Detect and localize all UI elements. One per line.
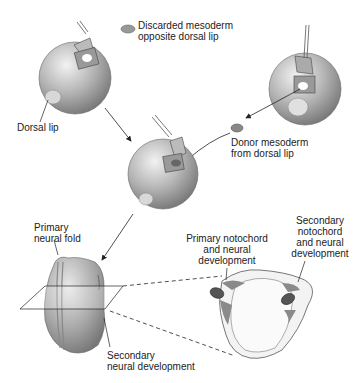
- donor-tissue: [231, 124, 243, 132]
- label-line: Primary notochord: [172, 233, 282, 244]
- label-secondary-notochord: Secondary notochord and neural developme…: [280, 215, 360, 259]
- label-line: development: [280, 248, 360, 259]
- label-line: neural development: [107, 361, 195, 372]
- label-line: development: [172, 255, 282, 266]
- label-discarded-mesoderm: Discarded mesoderm opposite dorsal lip: [138, 20, 233, 42]
- transplanted-embryo: [128, 115, 198, 209]
- cross-section: [209, 261, 313, 358]
- label-line: and neural: [172, 244, 282, 255]
- label-line: notochord: [280, 226, 360, 237]
- donor-embryo: [269, 25, 341, 125]
- host-embryo: [39, 21, 111, 122]
- label-line: from dorsal lip: [231, 148, 308, 159]
- label-line: Primary: [34, 222, 81, 233]
- label-line: Donor mesoderm: [231, 137, 308, 148]
- label-donor-mesoderm: Donor mesoderm from dorsal lip: [231, 137, 308, 159]
- diagram-canvas: [0, 0, 360, 383]
- label-primary-neural-fold: Primary neural fold: [34, 222, 81, 244]
- arrow-donor-to-transplant: [187, 133, 230, 160]
- label-line: and neural: [280, 237, 360, 248]
- label-line: Secondary: [280, 215, 360, 226]
- label-line: Secondary: [107, 350, 195, 361]
- label-dorsal-lip: Dorsal lip: [17, 122, 59, 133]
- label-line: opposite dorsal lip: [138, 31, 233, 42]
- arrow-to-neurula: [102, 214, 133, 260]
- label-primary-notochord: Primary notochord and neural development: [172, 233, 282, 266]
- label-line: neural fold: [34, 233, 81, 244]
- label-secondary-neural-development: Secondary neural development: [107, 350, 195, 372]
- discarded-tissue: [121, 25, 135, 33]
- arrow-host-to-transplant: [105, 108, 131, 141]
- label-line: Discarded mesoderm: [138, 20, 233, 31]
